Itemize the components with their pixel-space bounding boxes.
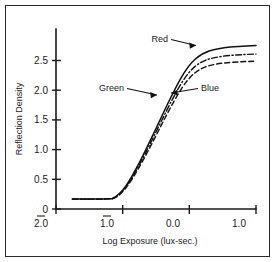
- y-tick-label-4: 2.0: [34, 85, 48, 96]
- sensitometric-curve-chart: 0 0.5 1.0 1.5 2.0 2.5 Reflection Density…: [0, 0, 275, 262]
- y-tick-label-0: 0: [42, 204, 48, 215]
- annotation-green: Green: [99, 83, 157, 98]
- curve-blue: [72, 61, 256, 199]
- y-axis-tick-labels: 0 0.5 1.0 1.5 2.0 2.5: [34, 55, 48, 215]
- y-tick-label-3: 1.5: [34, 114, 48, 125]
- annotation-blue-label: Blue: [201, 83, 219, 93]
- y-tick-label-2: 1.0: [34, 144, 48, 155]
- curve-green: [72, 54, 256, 199]
- annotation-red: Red: [151, 34, 196, 49]
- x-axis-tick-labels: 2.0 1.0 0.0 1.0: [34, 216, 246, 229]
- x-tick-label-2: 0.0: [166, 218, 180, 229]
- annotation-red-label: Red: [151, 34, 168, 44]
- annotation-green-arrow: [150, 92, 157, 98]
- figure-container: 0 0.5 1.0 1.5 2.0 2.5 Reflection Density…: [0, 0, 275, 262]
- x-tick-label-0: 2.0: [34, 218, 48, 229]
- y-tick-label-1: 0.5: [34, 174, 48, 185]
- curve-red: [72, 46, 256, 200]
- annotation-green-label: Green: [99, 83, 124, 93]
- annotation-red-arrow: [189, 43, 196, 49]
- x-tick-label-1: 1.0: [100, 218, 114, 229]
- y-axis-title: Reflection Density: [14, 82, 24, 155]
- y-tick-label-5: 2.5: [34, 55, 48, 66]
- x-tick-label-3: 1.0: [232, 218, 246, 229]
- x-axis-title: Log Exposure (lux-sec.): [102, 236, 197, 246]
